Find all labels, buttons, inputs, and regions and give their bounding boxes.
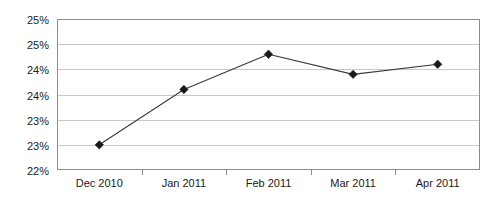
x-axis-labels: Dec 2010Jan 2011Feb 2011Mar 2011Apr 2011 bbox=[76, 177, 460, 189]
y-tick-label: 25% bbox=[27, 14, 49, 26]
x-tick-label: Dec 2010 bbox=[76, 177, 123, 189]
y-axis-labels: 25%25%24%24%23%23%22% bbox=[27, 14, 49, 177]
y-gridlines bbox=[57, 20, 480, 146]
y-tick-label: 24% bbox=[27, 90, 49, 102]
series-line bbox=[99, 54, 437, 145]
y-tick-label: 25% bbox=[27, 39, 49, 51]
line-chart: 25%25%24%24%23%23%22%Dec 2010Jan 2011Feb… bbox=[0, 0, 493, 199]
data-point-marker bbox=[264, 50, 272, 58]
x-tick-label: Mar 2011 bbox=[330, 177, 376, 189]
x-tick-label: Feb 2011 bbox=[246, 177, 292, 189]
y-tick-label: 23% bbox=[27, 140, 49, 152]
data-point-marker bbox=[434, 60, 442, 68]
plot-area-border bbox=[58, 20, 480, 170]
y-tick-label: 23% bbox=[27, 115, 49, 127]
x-tick-label: Jan 2011 bbox=[162, 177, 206, 189]
y-tick-label: 22% bbox=[27, 165, 49, 177]
data-point-marker bbox=[95, 141, 103, 149]
x-axis-ticks bbox=[143, 170, 396, 175]
data-point-marker bbox=[180, 85, 188, 93]
y-tick-label: 24% bbox=[27, 64, 49, 76]
x-tick-label: Apr 2011 bbox=[416, 177, 460, 189]
series-markers bbox=[95, 50, 442, 149]
data-point-marker bbox=[349, 70, 357, 78]
chart-canvas: 25%25%24%24%23%23%22%Dec 2010Jan 2011Feb… bbox=[0, 0, 493, 199]
